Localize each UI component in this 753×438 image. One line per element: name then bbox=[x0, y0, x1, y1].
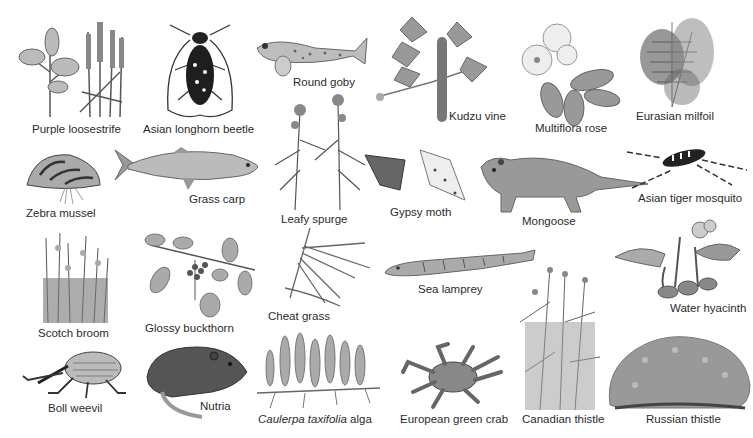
label-zebra-mussel: Zebra mussel bbox=[26, 207, 96, 220]
invasive-species-plate: Purple loosestrife Asian longhorn beetle… bbox=[0, 0, 753, 438]
label-leafy-spurge: Leafy spurge bbox=[281, 213, 348, 226]
weevil-icon bbox=[18, 348, 128, 400]
cheat-grass-illustration bbox=[280, 228, 375, 308]
label-eurasian-milfoil: Eurasian milfoil bbox=[636, 110, 714, 123]
beetle-icon bbox=[160, 20, 240, 120]
grass-stalk-icon bbox=[280, 228, 375, 308]
spurge-plant-icon bbox=[270, 90, 370, 212]
grass-carp-illustration bbox=[113, 145, 263, 195]
label-asian-tiger-mosquito: Asian tiger mosquito bbox=[638, 192, 742, 205]
label-asian-longhorn-beetle: Asian longhorn beetle bbox=[143, 123, 254, 136]
label-boll-weevil: Boll weevil bbox=[48, 402, 102, 415]
label-purple-loosestrife: Purple loosestrife bbox=[32, 123, 121, 136]
goby-fish-icon bbox=[255, 36, 370, 81]
label-glossy-buckthorn: Glossy buckthorn bbox=[145, 322, 234, 335]
label-round-goby: Round goby bbox=[293, 76, 355, 89]
label-caulerpa-suffix: alga bbox=[347, 413, 372, 425]
eurasian-milfoil-illustration bbox=[632, 12, 722, 107]
alga-frond-icon bbox=[255, 333, 385, 411]
asian-tiger-mosquito-illustration bbox=[622, 140, 752, 192]
label-sea-lamprey: Sea lamprey bbox=[418, 283, 483, 296]
label-multiflora-rose: Multiflora rose bbox=[535, 122, 607, 135]
caulerpa-taxifolia-illustration bbox=[255, 333, 385, 411]
broom-shrub-icon bbox=[38, 228, 113, 325]
label-russian-thistle: Russian thistle bbox=[646, 413, 721, 426]
purple-loosestrife-icon bbox=[10, 12, 130, 122]
label-nutria: Nutria bbox=[200, 400, 231, 413]
multiflora-rose-illustration bbox=[512, 20, 622, 120]
label-scotch-broom: Scotch broom bbox=[38, 327, 109, 340]
label-kudzu-vine: Kudzu vine bbox=[449, 110, 506, 123]
carp-fish-icon bbox=[113, 145, 263, 195]
mussel-shell-icon bbox=[25, 150, 105, 205]
label-cheat-grass: Cheat grass bbox=[268, 310, 330, 323]
russian-thistle-illustration bbox=[605, 330, 753, 410]
moth-icon bbox=[365, 145, 465, 205]
rose-flower-icon bbox=[512, 20, 622, 120]
label-grass-carp: Grass carp bbox=[189, 193, 245, 206]
gypsy-moth-illustration bbox=[365, 145, 465, 205]
asian-longhorn-beetle-illustration bbox=[160, 20, 240, 120]
hyacinth-plant-icon bbox=[610, 222, 745, 300]
label-caulerpa-species: Caulerpa taxifolia bbox=[258, 413, 347, 425]
nutria-illustration bbox=[142, 342, 252, 422]
crab-icon bbox=[393, 342, 508, 412]
purple-loosestrife-illustration bbox=[10, 12, 130, 122]
label-water-hyacinth: Water hyacinth bbox=[670, 302, 746, 315]
nutria-icon bbox=[142, 342, 252, 422]
zebra-mussel-illustration bbox=[25, 150, 105, 205]
thistle-plant-icon bbox=[510, 262, 605, 410]
scotch-broom-illustration bbox=[38, 228, 113, 325]
water-hyacinth-illustration bbox=[610, 222, 745, 300]
canadian-thistle-illustration bbox=[510, 262, 605, 410]
boll-weevil-illustration bbox=[18, 348, 128, 400]
label-mongoose: Mongoose bbox=[522, 215, 576, 228]
label-european-green-crab: European green crab bbox=[400, 413, 508, 426]
tumbleweed-shrub-icon bbox=[605, 330, 753, 410]
label-canadian-thistle: Canadian thistle bbox=[522, 413, 604, 426]
round-goby-illustration bbox=[255, 36, 370, 81]
label-caulerpa-taxifolia: Caulerpa taxifolia alga bbox=[258, 413, 372, 426]
glossy-buckthorn-illustration bbox=[135, 225, 265, 320]
label-gypsy-moth: Gypsy moth bbox=[390, 206, 451, 219]
buckthorn-branch-icon bbox=[135, 225, 265, 320]
european-green-crab-illustration bbox=[393, 342, 508, 412]
milfoil-plant-icon bbox=[632, 12, 722, 107]
mosquito-icon bbox=[622, 140, 752, 192]
leafy-spurge-illustration bbox=[270, 90, 370, 212]
